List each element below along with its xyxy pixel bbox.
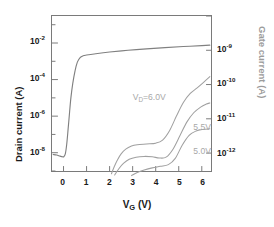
annotation-vd-6v: VD=6.0V (133, 92, 166, 103)
annotation-vd-rest: =6.0V (143, 92, 166, 102)
x-tick-3: 3 (126, 177, 140, 187)
y-left-tick--2: 10-2 (11, 36, 45, 46)
y-left-tick--8: 10-8 (11, 147, 45, 157)
x-tick-0: 0 (56, 177, 70, 187)
x-tick-5: 5 (172, 177, 186, 187)
x-tick-2: 2 (102, 177, 116, 187)
y-right-tick--11: 10-11 (217, 113, 235, 123)
x-tick-6: 6 (196, 177, 210, 187)
x-tick-1: 1 (79, 177, 93, 187)
curve-2 (115, 103, 210, 175)
figure-container: Drain current (A) Gate current (A) VG (V… (0, 0, 274, 227)
axis-ticks (52, 16, 211, 171)
y-right-tick--9: 10-9 (217, 44, 232, 54)
annotation-5-0v: 5.0V (193, 146, 211, 156)
y-right-tick--12: 10-12 (217, 148, 235, 158)
y-left-tick--6: 10-6 (11, 110, 45, 120)
annotation-5-5v: 5.5V (193, 122, 211, 132)
y-right-tick--10: 10-10 (217, 78, 235, 88)
x-axis-title: VG (V) (0, 199, 274, 212)
curve-0 (53, 45, 210, 157)
x-tick-4: 4 (149, 177, 163, 187)
y-axis-right-title: Gate current (A) (257, 26, 268, 98)
x-axis-title-unit: (V) (135, 199, 151, 210)
y-left-tick--4: 10-4 (11, 73, 45, 83)
plot-svg (52, 16, 211, 171)
data-curves (53, 45, 210, 175)
plot-area (51, 15, 212, 172)
